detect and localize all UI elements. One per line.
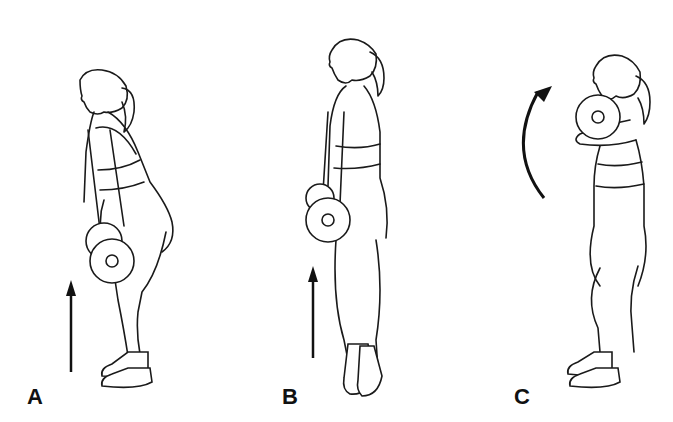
figure-b-illustration xyxy=(220,0,440,422)
curved-up-arrow-icon xyxy=(523,86,552,198)
panel-a: A xyxy=(0,0,220,422)
panel-label-a: A xyxy=(27,384,43,410)
figure-a-illustration xyxy=(0,0,220,422)
panel-label-c: C xyxy=(514,384,530,410)
up-arrow-icon xyxy=(308,266,318,358)
panel-label-b: B xyxy=(282,384,298,410)
panel-c: C xyxy=(440,0,673,422)
figure-c-illustration xyxy=(440,0,673,422)
up-arrow-icon xyxy=(66,280,76,372)
panel-b: B xyxy=(220,0,440,422)
